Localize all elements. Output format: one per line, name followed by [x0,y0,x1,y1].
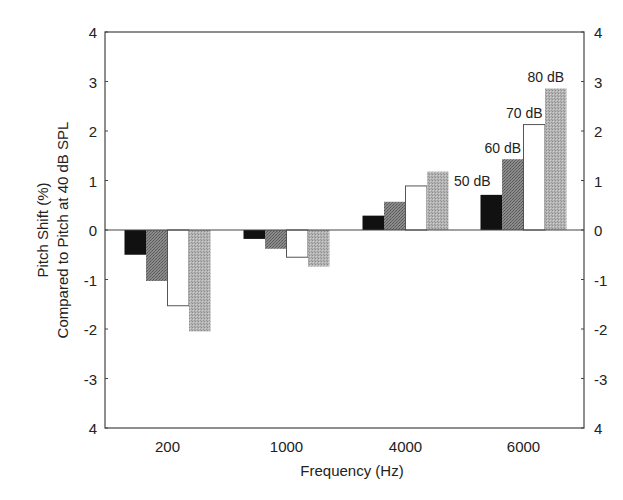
bar-80db-6000 [545,88,567,230]
left-tick-label: 3 [89,74,97,91]
left-tick-label: -2 [84,321,97,338]
y-axis-title: Pitch Shift (%) Compared to Pitch at 40 … [34,122,71,339]
annotation-60db: 60 dB [484,140,521,156]
left-y-axis: 43210-1-2-34 [84,24,108,437]
x-axis-title: Frequency (Hz) [300,462,403,479]
right-tick-label: 2 [594,123,602,140]
right-tick-label: 1 [594,173,602,190]
bar-60db-6000 [502,159,524,230]
right-y-axis: 43210-1-2-34 [581,24,607,437]
left-tick-label: 1 [89,173,97,190]
bars-group [125,88,567,331]
bar-60db-200 [146,230,168,281]
right-tick-label: -3 [594,371,607,388]
bar-50db-1000 [244,230,266,239]
left-tick-label: 0 [89,222,97,239]
bar-50db-6000 [481,195,503,230]
bar-50db-200 [125,230,147,255]
y-axis-title-line2: Compared to Pitch at 40 dB SPL [54,122,71,339]
x-axis-tick-labels: 200100040006000 [155,438,540,455]
annotation-80db: 80 dB [527,69,564,85]
x-tick-label: 4000 [389,438,422,455]
annotation-70db: 70 dB [506,105,543,121]
right-tick-label: 0 [594,222,602,239]
left-tick-label: 4 [89,420,97,437]
right-tick-label: 4 [594,420,602,437]
left-tick-label: -3 [84,371,97,388]
x-tick-label: 1000 [270,438,303,455]
annotation-50db: 50 dB [454,173,491,189]
bar-70db-1000 [287,230,309,257]
bar-70db-200 [168,230,190,306]
right-tick-label: -1 [594,272,607,289]
y-axis-title-line1: Pitch Shift (%) [34,182,51,277]
bar-50db-4000 [363,216,385,230]
right-tick-label: 3 [594,74,602,91]
right-tick-label: -2 [594,321,607,338]
x-tick-label: 200 [155,438,180,455]
bar-chart: 43210-1-2-34 43210-1-2-34 20010004000600… [0,0,623,500]
bar-70db-4000 [406,186,428,230]
bar-80db-1000 [308,230,330,267]
bar-60db-1000 [265,230,287,249]
bar-60db-4000 [384,202,406,230]
left-tick-label: 4 [89,24,97,41]
bar-80db-200 [189,230,211,331]
bar-80db-4000 [427,172,449,230]
left-tick-label: 2 [89,123,97,140]
right-tick-label: 4 [594,24,602,41]
bar-70db-6000 [524,125,546,230]
x-tick-label: 6000 [507,438,540,455]
left-tick-label: -1 [84,272,97,289]
